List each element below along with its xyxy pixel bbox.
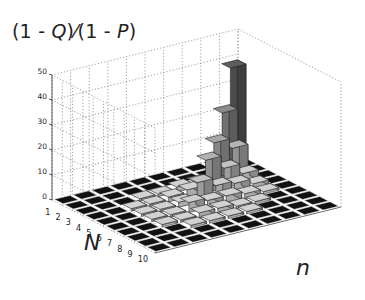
N-tick-label: 8 xyxy=(117,245,122,254)
z-tick xyxy=(49,74,52,75)
z-tick-label: 20 xyxy=(37,142,47,151)
N-tick-label: 1 xyxy=(45,208,50,217)
z-tick xyxy=(49,124,52,125)
z-tick-label: 40 xyxy=(37,92,47,101)
z-tick xyxy=(49,149,52,150)
z-tick-label: 30 xyxy=(37,117,47,126)
bar3d-chart: 0102030405012345678910 xyxy=(0,0,365,300)
wall-edge xyxy=(238,29,341,82)
z-gridline xyxy=(52,29,238,128)
axis-label-n: n xyxy=(296,255,310,280)
z-tick-label: 50 xyxy=(37,67,47,76)
N-tick-label: 3 xyxy=(66,218,71,227)
N-tick-label: 4 xyxy=(76,224,81,233)
N-tick-label: 9 xyxy=(128,250,133,259)
z-tick xyxy=(49,199,52,200)
z-tick-label: 0 xyxy=(42,192,47,201)
N-tick-label: 2 xyxy=(55,213,60,222)
N-tick-label: 7 xyxy=(107,239,112,248)
N-tick-label: 10 xyxy=(138,255,148,264)
axis-label-N: N xyxy=(84,230,100,255)
z-tick-label: 10 xyxy=(37,167,47,176)
z-tick xyxy=(49,174,52,175)
z-tick xyxy=(49,99,52,100)
